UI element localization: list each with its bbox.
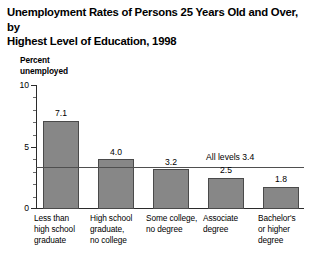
y-tick-minor-9 — [33, 97, 36, 98]
x-tick-label-bachelors-or-higher: Bachelor's or higher degree — [258, 213, 310, 246]
y-tick-minor-8 — [33, 110, 36, 111]
bar-bachelors-or-higher — [263, 187, 299, 209]
y-tick-label-10: 10 — [19, 81, 29, 90]
chart-figure: Unemployment Rates of Persons 25 Years O… — [0, 0, 310, 267]
all-levels-reference-line — [36, 167, 304, 168]
y-tick-minor-1 — [33, 197, 36, 198]
bar-value-some-college: 3.2 — [153, 158, 189, 167]
y-tick-major-5 — [31, 147, 36, 148]
y-tick-minor-4 — [33, 159, 36, 160]
y-tick-label-0: 0 — [24, 204, 29, 213]
y-tick-minor-3 — [33, 172, 36, 173]
bar-value-associate-degree: 2.5 — [208, 166, 244, 175]
bar-value-high-school-graduate: 4.0 — [98, 148, 134, 157]
bar-less-than-high-school — [43, 121, 79, 209]
chart-title: Unemployment Rates of Persons 25 Years O… — [7, 5, 303, 49]
x-tick-label-high-school-graduate: High school graduate, no college — [90, 213, 148, 246]
plot-area: 10 5 0 All levels 3.4 7.1 4.0 3.2 2.5 1.… — [36, 85, 304, 209]
all-levels-reference-label: All levels 3.4 — [206, 153, 254, 162]
y-axis-label: Percent unemployed — [20, 55, 140, 76]
bar-associate-degree — [208, 178, 244, 209]
x-tick-label-some-college: Some college, no degree — [146, 213, 206, 235]
x-tick-label-associate-degree: Associate degree — [203, 213, 258, 235]
x-tick-label-less-than-high-school: Less than high school graduate — [34, 213, 92, 246]
y-tick-minor-6 — [33, 135, 36, 136]
bar-value-bachelors-or-higher: 1.8 — [263, 175, 299, 184]
y-axis-line — [36, 85, 37, 209]
y-tick-minor-7 — [33, 122, 36, 123]
y-tick-major-10 — [31, 85, 36, 86]
bar-value-less-than-high-school: 7.1 — [43, 109, 79, 118]
y-tick-label-5: 5 — [24, 143, 29, 152]
bar-some-college — [153, 169, 189, 209]
y-tick-minor-2 — [33, 184, 36, 185]
y-tick-major-0 — [31, 208, 36, 209]
